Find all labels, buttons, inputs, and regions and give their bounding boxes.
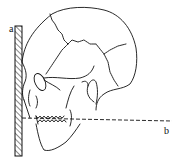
hatched-board [15,26,22,156]
label-b: b [164,126,169,136]
skull-outline [22,7,137,150]
diagram: a b [0,0,175,167]
skull-diagram-svg [0,0,175,167]
label-a: a [9,24,13,34]
